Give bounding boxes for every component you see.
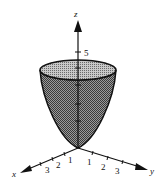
x-tick-3: 3: [45, 165, 50, 175]
y-tick-1: 1: [87, 157, 92, 167]
x-tick-1: 1: [68, 155, 73, 165]
x-axis-label: x: [11, 169, 16, 179]
x-arrow-icon: [20, 165, 32, 173]
y-tick-3: 3: [115, 166, 120, 176]
x-axis: x 1 2 3: [11, 148, 78, 179]
y-tick-2: 2: [101, 162, 106, 172]
z-tick-label: 5: [84, 48, 89, 58]
y-axis: y 1 2 3: [78, 148, 154, 176]
y-arrow-icon: [135, 163, 148, 170]
x-tick-2: 2: [56, 160, 61, 170]
z-axis-label: z: [73, 9, 78, 19]
z-arrow-icon: [74, 20, 82, 32]
paraboloid-figure: z 5 x 1 2 3 y 1 2 3: [0, 0, 163, 179]
y-axis-label: y: [149, 166, 154, 176]
